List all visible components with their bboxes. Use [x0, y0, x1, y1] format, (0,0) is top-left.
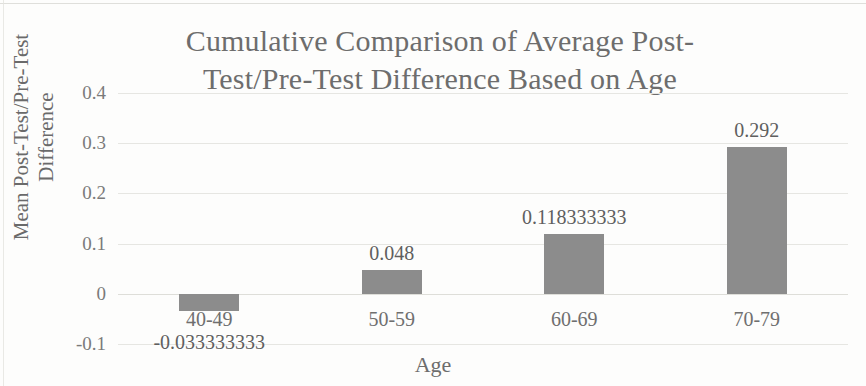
- bar[interactable]: [544, 234, 604, 293]
- y-axis-tick-label: 0.4: [52, 82, 106, 104]
- y-axis-tick-label: 0: [52, 283, 106, 305]
- bar[interactable]: [727, 147, 787, 294]
- x-axis-category-label: 40-49: [186, 308, 233, 331]
- x-axis-title: Age: [0, 352, 866, 378]
- x-axis-category-label: 70-79: [733, 308, 780, 331]
- scan-edge-top: [0, 3, 866, 4]
- bar-value-label: 0.292: [734, 119, 779, 142]
- bar-value-label: 0.048: [369, 242, 414, 265]
- bar[interactable]: [362, 270, 422, 294]
- y-axis-tick-label: 0.2: [52, 182, 106, 204]
- chart-title-line-1: Cumulative Comparison of Average Post-: [120, 22, 760, 60]
- chart-title: Cumulative Comparison of Average Post- T…: [120, 22, 760, 98]
- bar-group: 0.11833333360-69: [483, 93, 666, 344]
- y-axis-tick-label: 0.3: [52, 132, 106, 154]
- bar-series: -0.03333333340-490.04850-590.11833333360…: [118, 93, 848, 344]
- bar-group: -0.03333333340-49: [118, 93, 301, 344]
- bar-value-label: 0.118333333: [522, 206, 626, 229]
- bar-value-label: -0.033333333: [153, 331, 265, 354]
- y-axis-title-line-1: Mean Post-Test/Pre-Test: [9, 17, 34, 257]
- chart-figure: Cumulative Comparison of Average Post- T…: [0, 0, 866, 386]
- scan-edge-left: [3, 0, 4, 386]
- x-axis-category-label: 50-59: [368, 308, 415, 331]
- plot-area: 0.40.30.20.10-0.1 -0.03333333340-490.048…: [118, 93, 848, 344]
- y-axis-tick-label: 0.1: [52, 233, 106, 255]
- bar-group: 0.29270-79: [666, 93, 849, 344]
- x-axis-category-label: 60-69: [551, 308, 598, 331]
- bar-group: 0.04850-59: [301, 93, 484, 344]
